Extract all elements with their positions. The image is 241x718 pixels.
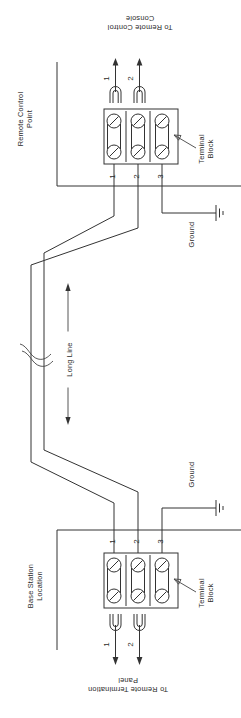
long-line-label: Long Line [65,332,74,388]
top-terminal-number-1: 1 [108,174,117,178]
top-tb-line2: Block [206,118,215,180]
top-tb-line1: Terminal [197,118,206,180]
bottom-terminal-block-box [104,553,178,608]
long-line-break-symbol [20,344,53,366]
bottom-tb-line1: Terminal [197,562,206,624]
bottom-terminal-block-leader [174,579,196,592]
top-ground-symbol [216,205,223,221]
bottom-ground-symbol [216,500,223,516]
bottom-jumper-number-1: 1 [102,642,111,646]
bottom-destination-label: To Remote Termination Panel [66,676,190,694]
bottom-terminal-screws [107,558,169,603]
bsl-line2: Location [35,536,44,636]
remote-control-point-label: Remote Control Point [16,69,34,169]
bottom-terminal-number-2: 2 [132,539,141,543]
base-station-location-label: Base Station Location [26,536,44,636]
bsl-line1: Base Station [26,536,35,636]
bottom-terminal-number-3: 3 [156,539,165,543]
top-jumper-number-1: 1 [102,76,111,80]
top-terminal-block-leader [174,135,196,148]
top-destination-label: To Remote Control Console [92,14,188,32]
rcp-line1: Remote Control [16,69,25,169]
bottom-destination-line1: To Remote Termination [66,685,190,694]
top-terminal-number-3: 3 [156,174,165,178]
bottom-ground-label: Ground [187,454,196,496]
bottom-terminal-number-1: 1 [108,539,117,543]
top-terminal-block-label: Terminal Block [197,118,215,180]
bottom-destination-line2: Panel [66,676,190,685]
top-terminal-block-box [104,109,178,164]
top-jumper-number-2: 2 [126,76,135,80]
top-destination-line2: Console [92,14,188,23]
bottom-terminal-block-label: Terminal Block [197,562,215,624]
top-destination-line1: To Remote Control [92,23,188,32]
long-line-pair [31,316,44,426]
rcp-line2: Point [25,69,34,169]
top-terminal-screws [107,114,169,159]
top-ground-label: Ground [187,214,196,256]
bottom-tb-line2: Block [206,562,215,624]
top-terminal-number-2: 2 [132,174,141,178]
wiring-diagram: To Remote Control Console Remote Control… [0,0,241,718]
bottom-jumper-number-2: 2 [126,642,135,646]
